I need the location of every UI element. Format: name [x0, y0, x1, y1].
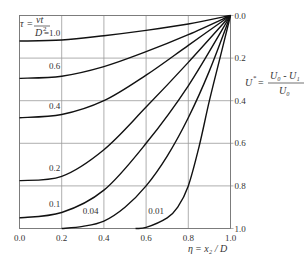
x-tick-labels: 0.00.20.40.60.81.0 — [14, 233, 237, 243]
x-axis-label: η = x₂ / D — [188, 243, 228, 254]
y-label-denominator: U₀ — [279, 85, 290, 96]
y-tick-label: 0.8 — [235, 181, 247, 191]
y-label-lhs: U — [245, 77, 253, 88]
chart: 0.00.20.40.60.81.0 0.00.20.40.60.81.0 0.… — [0, 0, 306, 262]
plot-frame — [20, 16, 231, 229]
tau-first-value: =1.0 — [44, 28, 61, 38]
tau-numerator: νt — [36, 14, 43, 25]
curve-label-0.4: 0.4 — [49, 101, 61, 111]
y-tick-label: 0.0 — [235, 11, 247, 21]
y-tick-label: 0.6 — [235, 138, 247, 148]
y-tick-labels: 0.00.20.40.60.81.0 — [235, 11, 247, 234]
curves — [20, 16, 231, 229]
curve-tau-0.01 — [136, 16, 231, 229]
x-tick-label: 0.8 — [183, 233, 195, 243]
x-tick-label: 0.2 — [56, 233, 67, 243]
curve-label-0.1: 0.1 — [49, 199, 60, 209]
curve-label-0.04: 0.04 — [83, 206, 99, 216]
curve-label-0.6: 0.6 — [49, 61, 61, 71]
x-tick-label: 0.6 — [140, 233, 152, 243]
x-tick-label: 0.4 — [98, 233, 110, 243]
parameter-annotation: τ = νt D 2 =1.0 — [20, 14, 61, 38]
y-label-equals: = — [258, 77, 264, 88]
x-label-rest: = x₂ / D — [195, 243, 228, 254]
tau-denominator: D — [34, 27, 43, 38]
x-tick-label: 0.0 — [14, 233, 26, 243]
tau-symbol: τ — [20, 18, 24, 29]
x-label-eta: η — [188, 243, 193, 254]
y-label-superscript: * — [253, 74, 257, 82]
tau-equals: = — [27, 18, 33, 29]
y-label-numerator: U₀ - U₁ — [270, 70, 300, 81]
x-tick-label: 1.0 — [225, 233, 237, 243]
curve-labels: 0.60.40.20.10.040.01 — [49, 61, 164, 216]
curve-label-0.01: 0.01 — [148, 206, 164, 216]
y-tick-label: 0.4 — [235, 96, 247, 106]
y-axis-label: U * = U₀ - U₁ U₀ — [245, 70, 304, 96]
curve-label-0.2: 0.2 — [49, 163, 60, 173]
y-tick-label: 1.0 — [235, 224, 247, 234]
y-tick-label: 0.2 — [235, 53, 246, 63]
